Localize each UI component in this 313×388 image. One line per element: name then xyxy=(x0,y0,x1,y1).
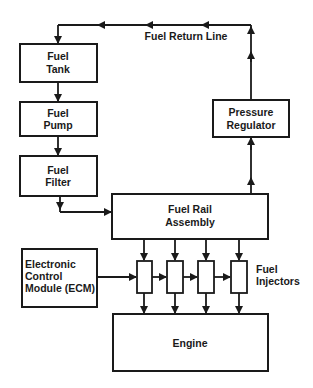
ecm-node: Electronic Control Module (ECM) xyxy=(22,249,97,307)
fuel-tank-node: Fuel Tank xyxy=(20,44,97,82)
fuel-injectors-label-2: Injectors xyxy=(256,275,300,287)
fuel-pump-label-1: Fuel xyxy=(47,107,69,119)
fuel-pump-label-2: Pump xyxy=(43,119,72,131)
fuel-pump-node: Fuel Pump xyxy=(20,102,97,136)
rail-to-injectors-arrows xyxy=(144,239,239,260)
engine-label: Engine xyxy=(172,337,207,349)
fuel-system-diagram: Fuel Return Line Fuel Tank Fuel Pump Fue… xyxy=(0,0,313,388)
fuel-tank-label-2: Tank xyxy=(46,63,70,75)
pressure-regulator-label-2: Regulator xyxy=(226,119,275,131)
fuel-filter-node: Fuel Filter xyxy=(20,156,97,196)
fuel-return-line-label: Fuel Return Line xyxy=(145,30,228,42)
ecm-label-3: Module (ECM) xyxy=(25,282,95,294)
fuel-filter-label-1: Fuel xyxy=(47,164,69,176)
engine-node: Engine xyxy=(113,314,268,371)
fuel-rail-label-2: Assembly xyxy=(165,216,215,228)
filter-to-rail-arrow xyxy=(60,196,111,212)
fuel-injector-2 xyxy=(167,261,183,293)
fuel-injector-1 xyxy=(137,261,152,293)
fuel-tank-label-1: Fuel xyxy=(47,50,69,62)
fuel-injector-4 xyxy=(231,261,247,293)
fuel-rail-label-1: Fuel Rail xyxy=(168,203,212,215)
pressure-regulator-label-1: Pressure xyxy=(229,106,274,118)
ecm-label-2: Control xyxy=(25,270,62,282)
ecm-label-1: Electronic xyxy=(25,258,76,270)
fuel-rail-assembly-node: Fuel Rail Assembly xyxy=(112,194,268,239)
fuel-injectors-label-1: Fuel xyxy=(256,263,278,275)
pressure-regulator-node: Pressure Regulator xyxy=(213,100,289,137)
injectors-to-engine-arrows xyxy=(144,293,239,313)
fuel-injector-3 xyxy=(198,261,214,293)
fuel-filter-label-2: Filter xyxy=(45,176,71,188)
